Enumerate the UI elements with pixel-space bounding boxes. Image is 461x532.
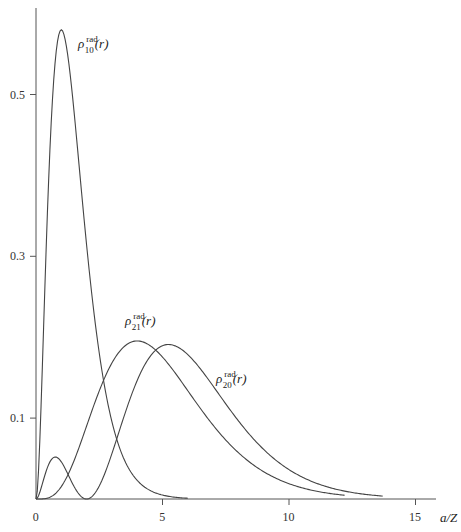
x-ticks: 051015 [33, 499, 421, 524]
label-rho-20: ρrad20(r) [215, 369, 246, 390]
y-tick-label: 0.5 [10, 88, 25, 102]
y-tick-label: 0.1 [10, 411, 25, 425]
x-tick-label: 5 [159, 510, 165, 524]
chart: 0.10.30.5 051015 a/Z ρrad10(r) ρrad21(r)… [0, 0, 461, 532]
curve-rho-10 [36, 30, 188, 499]
x-tick-label: 15 [409, 510, 421, 524]
y-tick-label: 0.3 [10, 249, 25, 263]
label-rho-10: ρrad10(r) [77, 34, 108, 55]
x-axis-label: a/Z [440, 510, 458, 525]
x-tick-label: 10 [283, 510, 295, 524]
label-rho-21: ρrad21(r) [124, 311, 155, 332]
y-ticks: 0.10.30.5 [10, 88, 36, 426]
x-tick-label: 0 [33, 510, 39, 524]
